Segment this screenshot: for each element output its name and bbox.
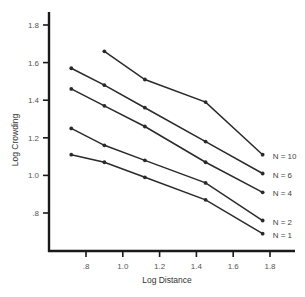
data-point (69, 126, 73, 130)
legend-label-n-2: N = 2 (273, 218, 293, 227)
data-point (261, 172, 265, 176)
y-tick-label: .8 (32, 209, 39, 218)
data-point (103, 49, 107, 53)
line-chart: .81.01.21.41.61.8 .81.01.21.41.61.8 N = … (0, 0, 305, 297)
series-n-6 (69, 66, 264, 175)
data-point (69, 87, 73, 91)
x-tick-label: 1.2 (154, 262, 166, 271)
series-n-2 (69, 126, 264, 222)
y-tick-label: 1.2 (28, 134, 40, 143)
data-point (261, 219, 265, 223)
x-tick-label: 1.0 (117, 262, 129, 271)
y-tick-label: 1.6 (28, 59, 40, 68)
x-tick-label: 1.8 (264, 262, 276, 271)
series-line (71, 68, 262, 173)
series-n-10 (103, 49, 265, 156)
x-axis-title: Log Distance (142, 275, 192, 285)
x-tick-label: 1.6 (228, 262, 240, 271)
legend-label-n-4: N = 4 (273, 189, 293, 198)
y-tick-label: 1.8 (28, 21, 40, 30)
x-ticks: .81.01.21.41.61.8 (83, 251, 276, 271)
series-group (69, 49, 264, 235)
legend-label-n-6: N = 6 (273, 171, 293, 180)
series-line (71, 155, 262, 234)
y-tick-label: 1.0 (28, 171, 40, 180)
data-point (69, 153, 73, 157)
data-point (143, 158, 147, 162)
legend-label-n-1: N = 1 (273, 231, 293, 240)
data-point (261, 232, 265, 236)
y-tick-label: 1.4 (28, 96, 40, 105)
data-point (143, 175, 147, 179)
series-line (104, 51, 262, 154)
data-point (103, 104, 107, 108)
y-ticks: .81.01.21.41.61.8 (28, 21, 49, 218)
data-point (204, 140, 208, 144)
data-point (204, 181, 208, 185)
y-axis-title: Log Crowding (10, 114, 20, 167)
data-point (204, 198, 208, 202)
data-point (261, 153, 265, 157)
legend: N = 10N = 6N = 4N = 2N = 1 (273, 152, 297, 240)
x-tick-label: .8 (83, 262, 90, 271)
axes (48, 12, 295, 252)
series-n-1 (69, 153, 264, 236)
data-point (204, 100, 208, 104)
x-tick-label: 1.4 (191, 262, 203, 271)
data-point (103, 83, 107, 87)
data-point (143, 125, 147, 129)
data-point (261, 190, 265, 194)
data-point (103, 160, 107, 164)
series-line (71, 89, 262, 192)
data-point (103, 143, 107, 147)
legend-label-n-10: N = 10 (273, 152, 297, 161)
data-point (143, 106, 147, 110)
series-n-4 (69, 87, 264, 194)
data-point (143, 78, 147, 82)
series-line (71, 128, 262, 220)
data-point (204, 160, 208, 164)
data-point (69, 66, 73, 70)
